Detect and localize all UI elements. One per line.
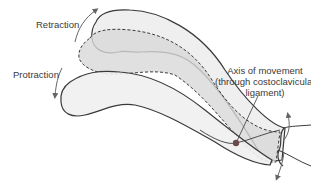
sternum-outline — [284, 125, 311, 128]
retraction-label: Retraction — [36, 19, 79, 30]
axis-label-line1: Axis of movement — [215, 65, 311, 76]
axis-label-line3: ligament) — [215, 87, 311, 98]
axis-label-line2: (through costoclavicular — [215, 76, 311, 87]
axis-dot — [233, 140, 239, 146]
protraction-label: Protraction — [13, 69, 59, 80]
